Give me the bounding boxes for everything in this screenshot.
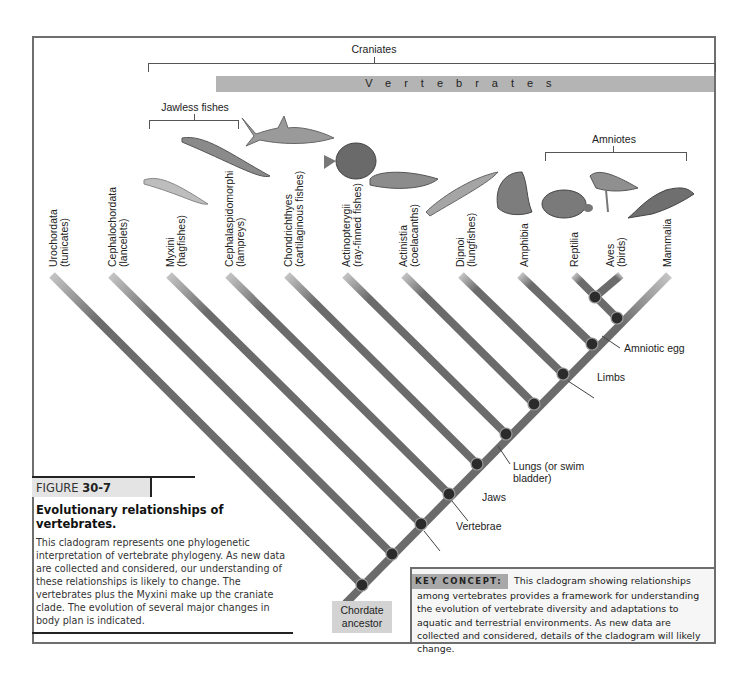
node-lungs [500, 428, 512, 440]
branch-chondrichthyes [287, 275, 477, 464]
key-concept-box: KEY CONCEPT:This cladogram showing relat… [410, 567, 716, 644]
figure-number-tab: FIGURE 30-7 [32, 478, 152, 497]
node-jaws [443, 488, 455, 500]
branch-cephalaspidomorphi [228, 275, 449, 494]
node-root [356, 579, 368, 591]
chordate-ancestor-box: Chordateancestor [332, 601, 392, 633]
node-1 [386, 548, 398, 560]
node-amniotic-egg [586, 338, 598, 350]
branch-actinistia [404, 275, 534, 404]
node-vertebrae [415, 518, 427, 530]
trait-label-vertebrae: Vertebrae [456, 520, 502, 532]
node-mammalia [611, 312, 623, 324]
trait-label-limbs: Limbs [597, 371, 625, 383]
trait-label-amniotic-egg: Amniotic egg [624, 342, 685, 354]
branch-dipnoi [461, 275, 563, 374]
node-6 [528, 398, 540, 410]
figure-title: Evolutionary relationships of vertebrate… [36, 503, 236, 531]
node-4 [471, 458, 483, 470]
trait-label-jaws: Jaws [482, 491, 506, 503]
node-limbs [557, 368, 569, 380]
key-concept-label: KEY CONCEPT: [412, 574, 508, 589]
figure-caption-body: This cladogram represents one phylogenet… [36, 536, 296, 627]
caption-rule-bottom [32, 632, 293, 634]
node-reptilia-aves [589, 291, 601, 303]
trait-label-lungs: Lungs (or swimbladder) [513, 460, 584, 484]
